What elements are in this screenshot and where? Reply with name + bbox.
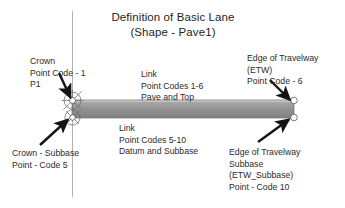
- annotation-crown-line-2: Point Code - 1: [30, 68, 86, 80]
- diagram-canvas: Definition of Basic Lane (Shape - Pave1): [0, 0, 345, 208]
- annotation-crown-subbase-line-1: Crown - Subbase: [12, 148, 79, 160]
- annotation-link-bottom-line-1: Link: [119, 123, 198, 135]
- annotation-link-top-line-3: Pave and Top: [141, 92, 203, 104]
- annotation-link-top-line-1: Link: [141, 69, 203, 81]
- annotation-crown-line-1: Crown: [30, 56, 86, 68]
- annotation-link-top: Link Point Codes 1-6 Pave and Top: [141, 69, 203, 104]
- annotation-etw-line-1: Edge of Travelway: [247, 53, 318, 65]
- annotation-crown-subbase-line-2: Point - Code 5: [12, 160, 79, 172]
- etw-point-marker: [291, 97, 298, 104]
- annotation-crown-line-3: P1: [30, 79, 86, 91]
- annotation-etw-line-2: (ETW): [247, 65, 318, 77]
- annotation-etw-subbase: Edge of Travelway Subbase (ETW_Subbase) …: [229, 147, 300, 193]
- annotation-link-top-line-2: Point Codes 1-6: [141, 81, 203, 93]
- annotation-link-bottom-line-2: Point Codes 5-10: [119, 135, 198, 147]
- annotation-etw-subbase-line-4: Point - Code 10: [229, 182, 300, 194]
- annotation-etw-line-3: Point Code - 6: [247, 76, 318, 88]
- crown-subbase-arrow: [40, 120, 68, 146]
- annotation-etw-subbase-line-1: Edge of Travelway: [229, 147, 300, 159]
- annotation-crown-subbase: Crown - Subbase Point - Code 5: [12, 148, 79, 171]
- annotation-etw: Edge of Travelway (ETW) Point Code - 6: [247, 53, 318, 88]
- annotation-etw-subbase-line-2: Subbase: [229, 159, 300, 171]
- annotation-link-bottom-line-3: Datum and Subbase: [119, 146, 198, 158]
- crown-point-marker: [62, 90, 84, 112]
- etw-subbase-arrow: [258, 120, 289, 143]
- annotation-etw-subbase-line-3: (ETW_Subbase): [229, 170, 300, 182]
- annotation-link-bottom: Link Point Codes 5-10 Datum and Subbase: [119, 123, 198, 158]
- etw-subbase-marker: [291, 114, 298, 121]
- annotation-crown: Crown Point Code - 1 P1: [30, 56, 86, 91]
